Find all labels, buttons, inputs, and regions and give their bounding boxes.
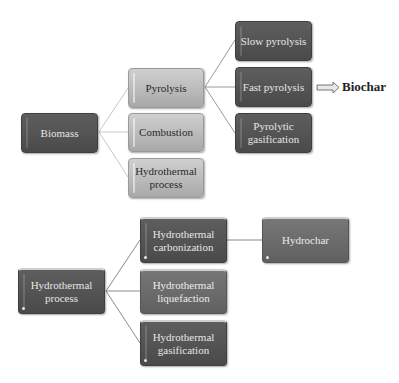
node-slow-pyrolysis: Slow pyrolysis — [235, 21, 312, 61]
node-label: Biomass — [38, 127, 82, 140]
node-label: Fast pyrolysis — [240, 81, 307, 94]
node-label: Hydrochar — [279, 234, 332, 247]
node-label: Slow pyrolysis — [238, 35, 310, 48]
biochar-output-label: Biochar — [342, 79, 386, 95]
node-label: Combustion — [136, 126, 196, 139]
node-hydrothermal-liquefaction: Hydrothermal liquefaction — [140, 269, 227, 314]
node-hydrothermal-gasification: Hydrothermal gasification — [140, 320, 227, 366]
double-arrow-right-icon — [317, 82, 339, 93]
node-label: Hydrothermal process — [19, 279, 104, 305]
node-hydrothermal-process-bottom: Hydrothermal process — [18, 268, 105, 314]
node-hydrochar: Hydrochar — [262, 217, 349, 263]
node-label: Hydrothermal liquefaction — [141, 279, 226, 305]
node-biomass: Biomass — [21, 113, 98, 153]
node-label: Pyrolytic gasification — [236, 120, 311, 146]
node-fast-pyrolysis: Fast pyrolysis — [235, 67, 312, 107]
node-label: Hydrothermal process — [129, 165, 203, 191]
node-hydrothermal-process-top: Hydrothermal process — [128, 158, 204, 198]
node-label: Hydrothermal carbonization — [141, 228, 226, 254]
node-label: Hydrothermal gasification — [141, 331, 226, 357]
node-pyrolysis: Pyrolysis — [128, 68, 204, 108]
node-pyrolytic-gasification: Pyrolytic gasification — [235, 113, 312, 153]
node-hydrothermal-carbonization: Hydrothermal carbonization — [140, 217, 227, 263]
node-label: Pyrolysis — [143, 82, 190, 95]
node-combustion: Combustion — [128, 113, 204, 152]
